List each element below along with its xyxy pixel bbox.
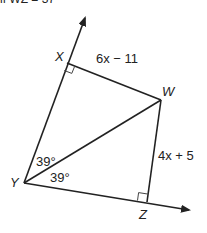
point-label-w: W [162, 84, 176, 99]
angle-label-wyz: 39° [50, 170, 70, 185]
segment-yw [24, 100, 161, 183]
right-angle-marker-z [138, 193, 149, 201]
diagram-canvas: if WZ = 37 X W Y Z 6x − 11 4x + 5 39° 39… [0, 0, 207, 233]
segment-xw [67, 63, 161, 100]
segment-label-xw: 6x − 11 [96, 51, 138, 66]
ray-yz [24, 183, 189, 210]
point-label-x: X [54, 49, 65, 64]
point-label-z: Z [138, 207, 148, 222]
angle-bisector-diagram: X W Y Z 6x − 11 4x + 5 39° 39° [0, 0, 207, 233]
segment-label-wz: 4x + 5 [158, 148, 194, 163]
point-label-y: Y [10, 175, 20, 190]
angle-label-xyw: 39° [36, 154, 56, 169]
